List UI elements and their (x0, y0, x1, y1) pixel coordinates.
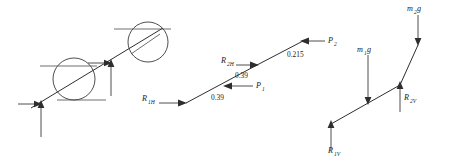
label-m1g: m 1 g (357, 45, 371, 56)
label-P1-sub: 1 (262, 86, 265, 92)
label-R1H-base: R (141, 94, 147, 103)
force-arrowhead-R1H (178, 99, 187, 106)
force-arrowhead-R2H (250, 61, 259, 68)
label-m2g-tail: g (417, 4, 421, 13)
label-R2H-sub: 2H (227, 61, 235, 67)
dimension-039-middle: 0.39 (235, 71, 248, 80)
force-arrowhead-m1g (365, 97, 372, 105)
label-P2-base: P (327, 36, 333, 45)
label-P1: P 1 (255, 81, 265, 92)
label-P2: P 2 (327, 36, 337, 47)
force-arrowhead-R2V (397, 81, 404, 89)
label-R2H-base: R (220, 56, 226, 65)
label-m1g-tail: g (367, 45, 371, 54)
label-m1g-base: m (357, 45, 363, 54)
label-R1H-sub: 1H (148, 99, 156, 105)
label-R1H: R 1H (141, 94, 156, 105)
vertical-diagram-member (331, 45, 418, 124)
force-arrowhead-P1 (223, 82, 232, 89)
force-arrowhead-P2 (300, 37, 309, 44)
upper-roller-chord (131, 34, 160, 54)
label-R2V-base: R (403, 93, 409, 102)
label-R2V-sub: 2V (410, 98, 417, 104)
label-R1V-sub: 1V (334, 151, 341, 157)
label-R1V-base: R (327, 146, 333, 155)
force-arrowhead-m2g (415, 38, 422, 46)
panel-mechanism-sketch (18, 22, 171, 137)
label-R2H: R 2H (220, 56, 235, 67)
panel-vertical-forces (328, 15, 422, 150)
dimension-039-lower: 0.39 (211, 93, 224, 102)
label-P1-base: P (255, 81, 261, 90)
figure-root: R 2H R 1H P 2 P 1 0.215 0.39 0.39 m 2 g (0, 0, 464, 159)
label-m2g-base: m (407, 4, 413, 13)
figure-canvas: R 2H R 1H P 2 P 1 0.215 0.39 0.39 m 2 g (0, 0, 464, 159)
dimension-0215: 0.215 (287, 50, 304, 59)
label-m2g: m 2 g (407, 4, 421, 15)
lower-roller-circle (53, 58, 95, 100)
force-arrowhead-R1V (328, 120, 335, 128)
label-P2-sub: 2 (334, 41, 337, 47)
label-R1V: R 1V (327, 146, 341, 157)
label-R2V: R 2V (403, 93, 417, 104)
